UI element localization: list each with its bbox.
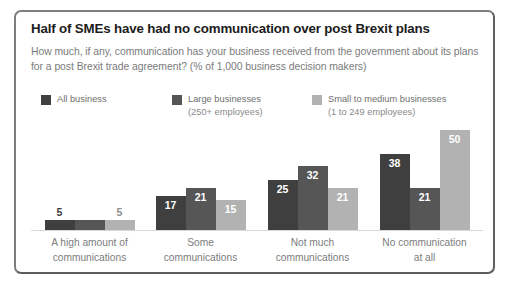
bar-value-label: 21 [328,191,358,203]
category-axis-labels: A high amount ofcommunications Somecommu… [31,236,483,270]
bar-group-bars: 382150 [372,130,477,230]
legend-swatch-icon [41,95,51,105]
bar: 38 [380,130,410,230]
category-label: Somecommunications [148,236,253,265]
bar-group-bars: 172115 [148,130,253,230]
bar-value-label: 25 [268,183,298,195]
bar: 15 [216,130,246,230]
bar-rect [45,220,75,230]
legend-label: Large businesses (250+ employees) [188,93,263,119]
bar-value-label: 32 [298,169,328,181]
legend-label: All business [57,93,107,106]
bar-value-label: 50 [440,133,470,145]
category-label-line: No communication [372,236,477,251]
chart-subtitle: How much, if any, communication has your… [31,45,483,74]
category-label-line: Some [148,236,253,251]
bar-value-label: 15 [216,203,246,215]
axis-baseline [31,230,483,231]
bar-value-label: 5 [105,206,135,218]
legend-item-small-to-medium-businesses: Small to medium businesses (1 to 249 emp… [312,93,446,119]
category-label-line: A high amount of [37,236,142,251]
bar: 21 [328,130,358,230]
bar-value-label: 17 [156,199,186,211]
bar-group-bars: 55 [37,130,142,230]
bar-group: 55 [37,130,142,230]
legend-label-text: Small to medium businesses [328,94,446,104]
bar: 21 [186,130,216,230]
category-label-line: Not much [260,236,365,251]
category-label: No communicationat all [372,236,477,265]
bar: 25 [268,130,298,230]
bar: 5 [45,130,75,230]
legend-label-text: Large businesses [188,94,261,104]
bar-group: 382150 [372,130,477,230]
bar: 50 [440,130,470,230]
bar-rect [440,130,470,230]
plot-area: 55 172115 253221 382150 [31,130,483,230]
bar-value-label: 5 [45,206,75,218]
category-label: Not muchcommunications [260,236,365,265]
legend-item-large-businesses: Large businesses (250+ employees) [172,93,263,119]
legend-swatch-icon [172,95,182,105]
bar: 17 [156,130,186,230]
bar: 21 [410,130,440,230]
bar-rect [105,220,135,230]
chart-title: Half of SMEs have had no communication o… [31,21,479,37]
bar-value-label: 38 [380,157,410,169]
legend-label: Small to medium businesses (1 to 249 emp… [328,93,446,119]
bar-group-bars: 253221 [260,130,365,230]
chart-card: Half of SMEs have had no communication o… [14,10,495,274]
category-label: A high amount ofcommunications [37,236,142,265]
legend-swatch-icon [312,95,322,105]
category-label-line: communications [148,251,253,266]
category-label-line: communications [37,251,142,266]
legend-sublabel: (1 to 249 employees) [328,106,446,119]
legend-item-all-business: All business [41,93,107,106]
category-label-line: at all [372,251,477,266]
bar [75,130,105,230]
bar-group: 172115 [148,130,253,230]
bar-group: 253221 [260,130,365,230]
chart-legend: All business Large businesses (250+ empl… [31,93,483,127]
bar: 5 [105,130,135,230]
bar-value-label: 21 [186,191,216,203]
category-label-line: communications [260,251,365,266]
bar-rect [75,220,105,230]
bar-value-label: 21 [410,191,440,203]
legend-sublabel: (250+ employees) [188,106,263,119]
bar: 32 [298,130,328,230]
